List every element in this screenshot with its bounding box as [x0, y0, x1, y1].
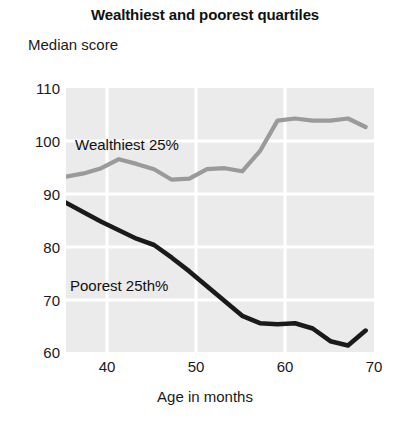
x-axis-label: Age in months — [0, 388, 410, 405]
series-annotation-poorest: Poorest 25th% — [70, 277, 168, 294]
chart-title: Wealthiest and poorest quartiles — [0, 6, 410, 23]
y-axis-ticks: 110 100 90 80 70 60 — [8, 0, 60, 422]
y-tick-70: 70 — [16, 292, 60, 309]
chart-container: Wealthiest and poorest quartiles Median … — [0, 0, 410, 422]
y-tick-60: 60 — [16, 344, 60, 361]
x-tick-70: 70 — [366, 358, 383, 375]
plot-area — [66, 88, 374, 352]
x-tick-60: 60 — [277, 358, 294, 375]
gridlines — [66, 88, 374, 352]
y-tick-90: 90 — [16, 186, 60, 203]
y-tick-80: 80 — [16, 239, 60, 256]
series-annotation-wealthiest: Wealthiest 25% — [75, 136, 179, 153]
x-tick-40: 40 — [99, 358, 116, 375]
series-line-poorest — [66, 203, 366, 346]
x-tick-50: 50 — [188, 358, 205, 375]
y-tick-100: 100 — [16, 133, 60, 150]
y-tick-110: 110 — [16, 80, 60, 97]
plot-svg — [66, 88, 374, 352]
